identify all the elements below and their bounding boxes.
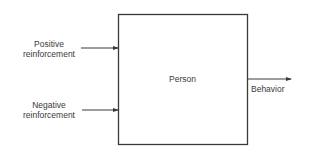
positive-label-line1: Positive xyxy=(17,39,81,49)
diagram-canvas xyxy=(0,0,309,153)
positive-reinforcement-label: Positive reinforcement xyxy=(17,39,81,59)
behavior-label: Behavior xyxy=(251,84,285,94)
negative-label-line2: reinforcement xyxy=(17,110,81,120)
negative-label-line1: Negative xyxy=(17,100,81,110)
person-label: Person xyxy=(169,74,196,84)
negative-reinforcement-label: Negative reinforcement xyxy=(17,100,81,120)
positive-label-line2: reinforcement xyxy=(17,49,81,59)
